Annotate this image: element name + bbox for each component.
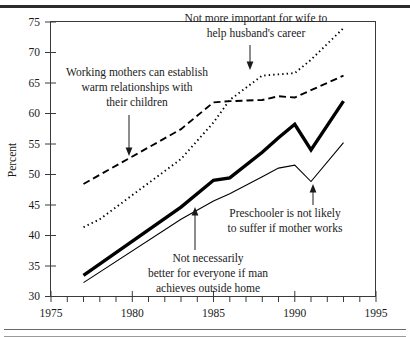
annot-working-mothers-arrow-head [126, 148, 133, 157]
series-line-preschooler [84, 101, 344, 275]
ytick-label-75: 75 [29, 16, 41, 28]
ytick-label-70: 70 [29, 46, 41, 58]
figure-container: 30 35 40 45 50 55 60 65 70 75 Percent [0, 0, 410, 337]
annot-not-necessarily-line3: achieves outside home [156, 282, 260, 294]
xtick-label-1990: 1990 [283, 307, 306, 319]
annot-working-mothers-line3: their children [106, 96, 168, 108]
annot-not-necessarily-line2: better for everyone if man [148, 267, 268, 280]
annot-working-mothers-line1: Working mothers can establish [66, 66, 208, 79]
annot-wife-career-line1: Not more important for wife to [185, 12, 328, 25]
series-line-wife-career [84, 28, 344, 227]
annot-wife-career-line2: help husband's career [207, 27, 306, 40]
annot-not-necessarily: Not necessarily better for everyone if m… [148, 207, 268, 294]
annot-wife-career: Not more important for wife to help husb… [185, 12, 328, 70]
y-axis-labels: 30 35 40 45 50 55 60 65 70 75 [29, 16, 41, 303]
chart-canvas: 30 35 40 45 50 55 60 65 70 75 Percent [0, 0, 410, 337]
xtick-label-1985: 1985 [202, 307, 225, 319]
y-axis-title: Percent [6, 142, 18, 177]
ytick-label-30: 30 [29, 290, 41, 302]
annot-preschooler-arrow-head [310, 184, 317, 193]
xtick-label-1980: 1980 [121, 307, 144, 319]
annot-wife-career-arrow-head [247, 62, 254, 71]
annot-preschooler-line2: to suffer if mother works [228, 222, 343, 234]
ytick-label-50: 50 [29, 168, 41, 180]
annot-working-mothers-line2: warm relationships with [81, 81, 192, 94]
ytick-label-65: 65 [29, 77, 41, 89]
annot-working-mothers: Working mothers can establish warm relat… [66, 66, 208, 156]
annot-preschooler: Preschooler is not likely to suffer if m… [228, 184, 343, 234]
ytick-label-45: 45 [29, 199, 41, 211]
ytick-label-35: 35 [29, 260, 41, 272]
bottom-rule [4, 329, 406, 330]
ytick-label-55: 55 [29, 138, 41, 150]
annot-preschooler-line1: Preschooler is not likely [229, 207, 341, 220]
ytick-label-40: 40 [29, 229, 41, 241]
x-axis-labels: 1975 1980 1985 1990 1995 [40, 307, 388, 319]
annot-not-necessarily-line1: Not necessarily [172, 252, 243, 265]
xtick-label-1975: 1975 [40, 307, 63, 319]
ytick-label-60: 60 [29, 107, 41, 119]
xtick-label-1995: 1995 [365, 307, 388, 319]
annot-not-necessarily-arrow-head [192, 207, 199, 216]
